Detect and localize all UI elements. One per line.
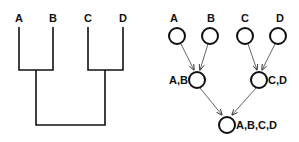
node-label-cd: C,D <box>268 74 287 86</box>
leaf-label-d: D <box>119 12 127 24</box>
node-label-d: D <box>276 12 284 24</box>
branch-cd <box>88 27 123 70</box>
edge-a-ab <box>181 44 194 70</box>
leaf-label-b: B <box>49 12 57 24</box>
node-ab <box>189 72 205 88</box>
node-a <box>169 28 185 44</box>
branch-ab <box>19 27 53 70</box>
node-label-c: C <box>241 12 249 24</box>
dendrogram: A B C D <box>15 12 127 125</box>
edge-b-ab <box>200 44 208 70</box>
merge-tree: A B C D A,B C,D A,B,C,D <box>169 12 287 133</box>
branch-abcd <box>36 70 105 125</box>
edge-cd-abcd <box>232 88 256 115</box>
node-label-b: B <box>207 12 215 24</box>
leaf-label-a: A <box>15 12 23 24</box>
edge-c-cd <box>248 44 257 70</box>
node-c <box>237 28 253 44</box>
node-label-abcd: A,B,C,D <box>236 119 277 131</box>
node-d <box>270 28 286 44</box>
node-label-a: A <box>170 12 178 24</box>
leaf-label-c: C <box>84 12 92 24</box>
node-label-ab: A,B <box>169 74 188 86</box>
node-cd <box>251 72 267 88</box>
edge-d-cd <box>262 44 275 70</box>
node-b <box>202 28 218 44</box>
hierarchical-clustering-diagram: A B C D A B C D <box>0 0 299 142</box>
edge-ab-abcd <box>200 88 222 115</box>
node-abcd <box>219 117 235 133</box>
